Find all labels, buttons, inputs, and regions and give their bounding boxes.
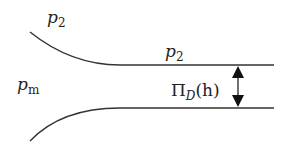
thin-film-diagram: p2 p2 pm ΠD(h) (0, 0, 284, 147)
thickness-arrow-icon (232, 66, 244, 107)
label-disjoining-pressure: ΠD(h) (171, 80, 220, 103)
label-pm: pm (17, 74, 40, 97)
label-p2-outer: p2 (47, 7, 66, 30)
lower-interface-curve (30, 108, 274, 141)
upper-interface-curve (30, 32, 274, 65)
label-p2-film: p2 (165, 41, 184, 64)
